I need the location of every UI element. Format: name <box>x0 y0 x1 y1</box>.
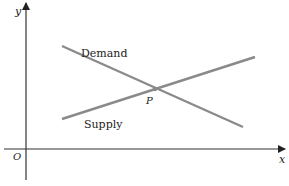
intersection-label: P <box>145 95 153 106</box>
supply-line <box>62 57 255 119</box>
supply-label: Supply <box>84 118 123 131</box>
equilibrium-point <box>153 87 157 91</box>
y-axis-label: y <box>14 5 22 18</box>
x-axis-label: x <box>279 153 286 166</box>
supply-demand-diagram: y x O Demand Supply P <box>0 0 289 186</box>
demand-label: Demand <box>81 47 127 60</box>
origin-label: O <box>13 151 21 162</box>
